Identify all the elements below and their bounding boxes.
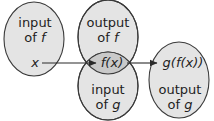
gfx-point-label: g(f(x)) [163,55,204,70]
output-of-g-label: output of g [159,82,202,112]
input-of-f-label: input of f [18,15,51,45]
x-point-label: x [31,55,39,70]
output-of-f-label: output of f [87,15,130,45]
fx-point-label: f(x) [101,55,123,70]
input-of-g-label: input of g [91,82,124,112]
